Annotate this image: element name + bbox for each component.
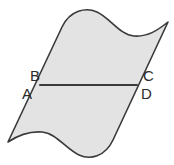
geometry-figure: A B C D [0, 0, 174, 165]
vertex-label-c: C [143, 68, 154, 83]
vertex-label-b: B [30, 68, 40, 83]
vertex-label-d: D [141, 86, 152, 101]
vertex-label-a: A [22, 86, 32, 101]
